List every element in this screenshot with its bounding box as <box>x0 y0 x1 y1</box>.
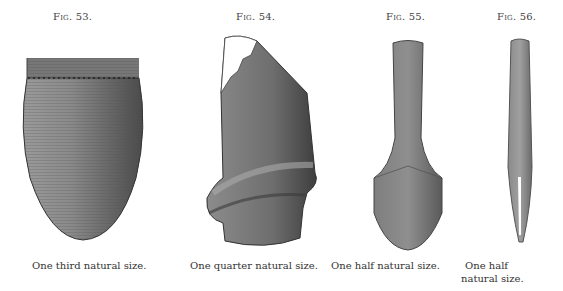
figure-54-caption: One quarter natural size. <box>190 259 318 272</box>
figure-55-pestle-illustration <box>368 38 448 253</box>
figure-54-label: Fig. 54. <box>236 11 275 22</box>
figure-55-caption: One half natural size. <box>331 259 440 272</box>
figure-55-label: Fig. 55. <box>386 11 425 22</box>
figure-56-caption-line1: One half <box>465 259 508 272</box>
figure-53-label: Fig. 53. <box>53 11 92 22</box>
figure-56-caption-line2: natural size. <box>461 272 524 285</box>
figure-56-label: Fig. 56. <box>497 11 536 22</box>
figure-54-implement-illustration <box>195 33 325 253</box>
figure-56-bone-tool-illustration <box>505 37 535 257</box>
figure-53-vessel-illustration <box>20 48 150 248</box>
figure-53-caption: One third natural size. <box>32 259 146 272</box>
